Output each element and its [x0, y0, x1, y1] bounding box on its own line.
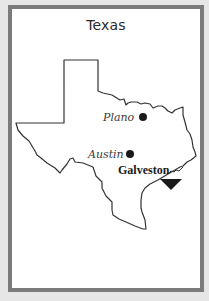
austin-dot-icon: [126, 150, 134, 158]
texas-map: Plano Austin Galveston: [0, 0, 209, 301]
city-label-austin: Austin: [87, 148, 124, 161]
plano-dot-icon: [139, 113, 147, 121]
galveston-triangle-icon: [160, 179, 182, 190]
texas-outline: [16, 60, 196, 229]
city-label-plano: Plano: [102, 111, 135, 124]
city-label-galveston: Galveston: [118, 163, 170, 177]
